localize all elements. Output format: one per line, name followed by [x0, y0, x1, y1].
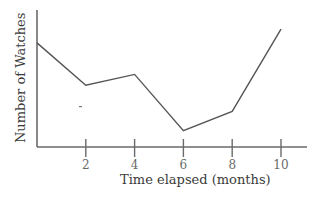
x-tick-label-6: 6 — [180, 158, 188, 172]
x-tick-label-8: 8 — [228, 158, 236, 172]
x-tick-label-10: 10 — [273, 158, 288, 172]
y-axis-label: Number of Watches — [13, 13, 28, 143]
x-tick-label-4: 4 — [131, 158, 139, 172]
x-axis-label: Time elapsed (months) — [120, 172, 271, 187]
x-tick-label-2: 2 — [82, 158, 90, 172]
stray-mark — [79, 106, 82, 107]
x-axis-tick-labels: 246810 — [82, 158, 289, 172]
x-axis-ticks — [86, 139, 281, 157]
data-line-number-of-watches — [37, 29, 281, 130]
line-chart: 246810 Time elapsed (months) Number of W… — [0, 0, 317, 197]
